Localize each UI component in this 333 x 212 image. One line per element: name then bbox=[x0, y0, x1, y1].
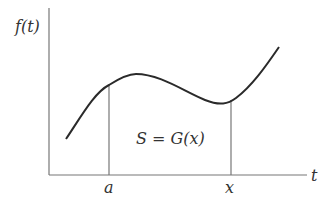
upper-limit-label: x bbox=[225, 178, 234, 197]
x-axis-label: t bbox=[311, 166, 318, 185]
function-curve bbox=[66, 47, 279, 139]
area-label: S = G(x) bbox=[136, 129, 205, 148]
area-under-curve-diagram: f(t) t a x S = G(x) bbox=[0, 0, 333, 212]
y-axis-label: f(t) bbox=[14, 17, 40, 36]
lower-limit-label: a bbox=[104, 178, 114, 197]
